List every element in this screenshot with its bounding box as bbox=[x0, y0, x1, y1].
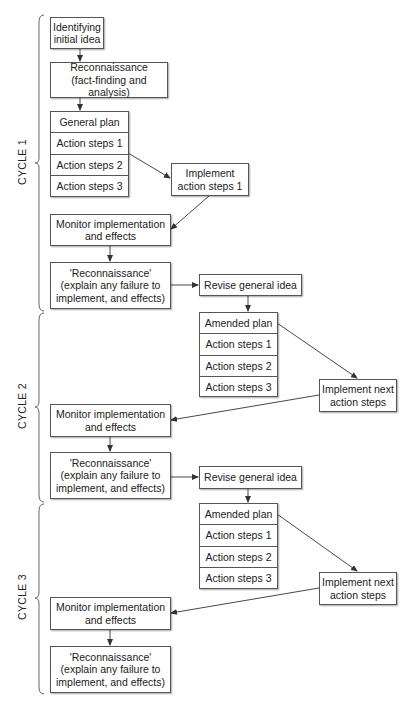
node-implement-next-cycle-3: Implement next action steps bbox=[319, 572, 397, 605]
node-text: implement, and effects) bbox=[56, 292, 165, 305]
node-revise-cycle-2: Revise general idea bbox=[199, 466, 302, 489]
node-text: Implement next bbox=[322, 383, 394, 396]
brace-cycle-2 bbox=[35, 313, 44, 502]
action-steps-3: Action steps 3 bbox=[51, 176, 128, 197]
node-general-plan: General plan Action steps 1 Action steps… bbox=[50, 111, 129, 197]
node-reconnaissance-cycle-3: 'Reconnaissance' (explain any failure to… bbox=[50, 646, 171, 693]
node-text: Identifying bbox=[53, 21, 101, 34]
node-text: (fact-finding and analysis) bbox=[51, 74, 167, 99]
node-reconnaissance-fact-finding: Reconnaissance (fact-finding and analysi… bbox=[50, 62, 168, 98]
cycle-3-label: CYCLE 3 bbox=[16, 567, 28, 627]
action-steps-2: Action steps 2 bbox=[200, 356, 277, 377]
plan-title: Amended plan bbox=[200, 504, 277, 525]
cycle-1-label: CYCLE 1 bbox=[16, 132, 28, 192]
node-text: Implement next bbox=[322, 576, 394, 589]
node-text: action steps 1 bbox=[178, 180, 243, 193]
plan-title: General plan bbox=[51, 112, 128, 133]
action-steps-2: Action steps 2 bbox=[200, 547, 277, 568]
action-steps-1: Action steps 1 bbox=[200, 334, 277, 355]
node-text: 'Reconnaissance' bbox=[70, 457, 152, 470]
node-text: action steps bbox=[330, 396, 386, 409]
node-monitor-implementation: Monitor implementation and effects bbox=[50, 214, 171, 246]
action-steps-3: Action steps 3 bbox=[200, 568, 277, 589]
node-text: Revise general idea bbox=[204, 471, 297, 484]
node-implement-action-steps-1: Implement action steps 1 bbox=[171, 163, 249, 196]
node-revise-general-idea: Revise general idea bbox=[199, 274, 302, 296]
brace-cycle-3 bbox=[35, 504, 44, 694]
cycle-2-label: CYCLE 2 bbox=[16, 376, 28, 436]
node-text: (explain any failure to bbox=[61, 663, 161, 676]
node-text: Revise general idea bbox=[204, 279, 297, 292]
node-text: Monitor implementation bbox=[56, 408, 165, 421]
action-steps-3: Action steps 3 bbox=[200, 377, 277, 398]
node-text: and effects bbox=[85, 421, 136, 434]
node-text: implement, and effects) bbox=[56, 482, 165, 495]
node-text: Implement bbox=[185, 167, 234, 180]
plan-title: Amended plan bbox=[200, 313, 277, 334]
node-reconnaissance-cycle-2: 'Reconnaissance' (explain any failure to… bbox=[50, 452, 171, 499]
node-text: 'Reconnaissance' bbox=[70, 267, 152, 280]
node-text: (explain any failure to bbox=[61, 279, 161, 292]
action-steps-2: Action steps 2 bbox=[51, 155, 128, 176]
action-steps-1: Action steps 1 bbox=[200, 525, 277, 546]
node-monitor-cycle-2: Monitor implementation and effects bbox=[50, 404, 171, 437]
node-text: initial idea bbox=[54, 33, 101, 46]
node-text: Monitor implementation bbox=[56, 218, 165, 231]
node-amended-plan-cycle-3: Amended plan Action steps 1 Action steps… bbox=[199, 503, 278, 589]
action-steps-1: Action steps 1 bbox=[51, 133, 128, 154]
action-research-diagram: CYCLE 1 CYCLE 2 CYCLE 3 Identifying init… bbox=[0, 0, 414, 708]
node-amended-plan-cycle-2: Amended plan Action steps 1 Action steps… bbox=[199, 312, 278, 397]
node-identifying-initial-idea: Identifying initial idea bbox=[50, 17, 104, 49]
node-monitor-cycle-3: Monitor implementation and effects bbox=[50, 597, 171, 630]
node-implement-next-cycle-2: Implement next action steps bbox=[319, 379, 397, 412]
node-text: implement, and effects) bbox=[56, 676, 165, 689]
node-text: and effects bbox=[85, 614, 136, 627]
node-reconnaissance-explain: 'Reconnaissance' (explain any failure to… bbox=[50, 262, 171, 309]
node-text: (explain any failure to bbox=[61, 469, 161, 482]
node-text: Monitor implementation bbox=[56, 601, 165, 614]
node-text: and effects bbox=[85, 230, 136, 243]
node-text: action steps bbox=[330, 589, 386, 602]
node-text: Reconnaissance bbox=[70, 61, 148, 74]
node-text: 'Reconnaissance' bbox=[70, 651, 152, 664]
brace-cycle-1 bbox=[35, 15, 44, 311]
